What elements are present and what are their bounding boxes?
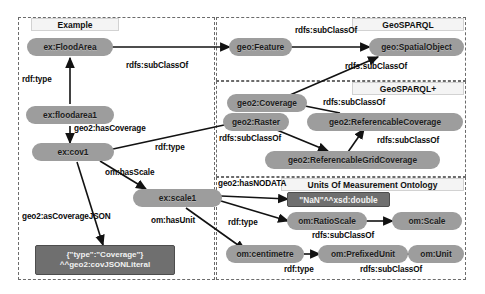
edge-label-subclassof-ratioscale-scale: rdfs:subClassOf	[312, 231, 374, 240]
node-geo-feature[interactable]: geo:Feature	[229, 38, 292, 56]
node-om-centimetre[interactable]: om:centimetre	[226, 245, 304, 263]
edge-label-subclassof-floodarea-feature: rdfs:subClassOf	[126, 61, 188, 70]
edge-label-hasscale: om:hasScale	[105, 168, 154, 177]
edge-label-subclassof-prefixedunit-unit: rdfs:subClassOf	[360, 265, 422, 274]
node-ex-scale1[interactable]: ex:scale1	[133, 189, 222, 207]
edge-label-hasunit: om:hasUnit	[151, 216, 195, 225]
node-om-prefixedunit[interactable]: om:PrefixedUnit	[318, 245, 408, 263]
edge-ascoveragejson	[77, 162, 103, 245]
node-om-ratioscale[interactable]: om:RatioScale	[287, 212, 367, 230]
edge-label-subclassof-coverage-spatialobject: rdfs:subClassOf	[345, 62, 407, 71]
node-ex-cov1[interactable]: ex:cov1	[32, 143, 114, 161]
edge-label-rdftype-scale1-ratioscale: rdf:type	[228, 218, 258, 227]
edge-label-subclassof-refcov-coverage: rdfs:subClassOf	[323, 98, 385, 107]
edge-label-rdftype-cov1-raster: rdf:type	[155, 143, 185, 152]
node-ex-floodarea1[interactable]: ex:floodarea1	[26, 106, 114, 124]
edge-label-hascoverage: geo2:hasCoverage	[74, 124, 146, 133]
edge-label-rdftype-centimetre-prefixedunit: rdf:type	[284, 265, 314, 274]
node-nan-literal[interactable]: "NaN"^^xsd:double	[287, 192, 390, 207]
node-geo2-referencablecoverage[interactable]: geo2:ReferencableCoverage	[307, 113, 463, 131]
json-literal-line1: {"type":"Coverage"}	[67, 250, 144, 260]
node-ex-floodarea[interactable]: ex:FloodArea	[27, 38, 113, 56]
node-json-literal[interactable]: {"type":"Coverage"} ^^geo2:covJSONLitera…	[35, 245, 175, 275]
node-geo2-coverage[interactable]: geo2:Coverage	[227, 94, 307, 112]
edge-label-subclassof-raster-refgridcov: rdfs:subClassOf	[219, 134, 281, 143]
edge-label-rdf-type-floodarea: rdf:type	[22, 75, 52, 84]
edge-subclassof-refgridcov-refcov	[348, 129, 364, 152]
edge-hasunit	[186, 208, 245, 250]
json-literal-line2: ^^geo2:covJSONLiteral	[60, 260, 150, 270]
node-om-scale[interactable]: om:Scale	[392, 212, 462, 230]
node-geo2-raster[interactable]: geo2:Raster	[223, 113, 289, 131]
node-geo2-referencablegridcoverage[interactable]: geo2:ReferencableGridCoverage	[265, 151, 440, 169]
node-om-unit[interactable]: om:Unit	[408, 245, 464, 263]
edge-hasnodata	[221, 196, 288, 199]
diagram-canvas: Example GeoSPARQL GeoSPARQL+ Units Of Me…	[0, 0, 485, 294]
edge-label-subclassof-feature-spatialobject: rdfs:subClassOf	[295, 26, 357, 35]
edge-label-subclassof-refgridcov-refcov: rdfs:subClassOf	[377, 136, 439, 145]
node-geo-spatialobject[interactable]: geo:SpatialObject	[369, 38, 464, 56]
edge-label-hasnodata: geo2:hasNODATA	[218, 179, 286, 188]
edge-label-ascoveragejson: geo2:asCoverageJSON	[22, 212, 111, 221]
